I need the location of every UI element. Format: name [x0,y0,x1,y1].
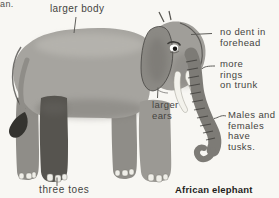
elephant-body [13,28,152,119]
back-highlight [35,33,145,57]
trunk-tip-curl [197,148,213,160]
eye-pupil [173,47,177,51]
label-more-rings-on-trunk: more rings on trunk [220,59,258,91]
page-text-fragment: an. [0,0,14,10]
caption-african-elephant: African elephant [175,184,253,195]
leg-joint-shadow [40,101,68,115]
elephant-diagram: an. larger body no dent in forehead more… [0,0,279,198]
label-males-females-tusks: Males and females have tusks. [228,110,279,152]
label-larger-ears: larger ears [152,99,179,121]
leader-more-rings [202,66,215,69]
label-no-dent-in-forehead: no dent in forehead [220,26,266,48]
head-hair-2 [169,11,171,20]
leader-larger-ears [158,88,159,99]
head-hair-1 [159,12,164,22]
elephant-trunk [186,54,215,159]
ear-inner-shade [147,38,167,82]
label-larger-body: larger body [50,4,104,15]
label-three-toes: three toes [39,185,89,196]
leader-tusks [214,116,226,119]
